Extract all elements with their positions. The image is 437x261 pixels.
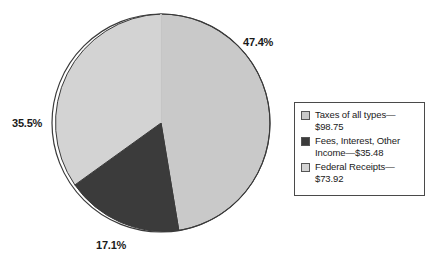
legend-swatch-icon-fees-interest-other-income — [301, 137, 310, 146]
pie-label-fees-interest-other-income: 17.1% — [96, 239, 126, 251]
legend-label-line1: Fees, Interest, Other — [315, 135, 400, 146]
legend-item-federal-receipts[interactable]: Federal Receipts— $73.92 — [301, 161, 419, 184]
legend-label-federal-receipts: Federal Receipts— $73.92 — [315, 161, 395, 184]
legend-label-line2: $98.75 — [315, 121, 343, 132]
legend-label-line2: Income—$35.48 — [315, 147, 383, 158]
pie-chart-area: 47.4% 17.1% 35.5% — [0, 0, 290, 261]
legend-item-taxes-of-all-types[interactable]: Taxes of all types— $98.75 — [301, 109, 419, 132]
legend-swatch-icon-federal-receipts — [301, 163, 310, 172]
legend-item-fees-interest-other-income[interactable]: Fees, Interest, Other Income—$35.48 — [301, 135, 419, 158]
legend-label-line1: Taxes of all types— — [315, 109, 395, 120]
legend-label-line1: Federal Receipts— — [315, 161, 395, 172]
pie-chart-figure: 47.4% 17.1% 35.5% Taxes of all types— $9… — [0, 0, 437, 261]
pie-label-federal-receipts: 35.5% — [12, 117, 42, 129]
chart-legend: Taxes of all types— $98.75 Fees, Interes… — [294, 102, 425, 196]
legend-label-taxes-of-all-types: Taxes of all types— $98.75 — [315, 109, 395, 132]
legend-label-fees-interest-other-income: Fees, Interest, Other Income—$35.48 — [315, 135, 400, 158]
legend-swatch-icon-taxes-of-all-types — [301, 111, 310, 120]
legend-label-line2: $73.92 — [315, 173, 343, 184]
pie-label-taxes-of-all-types: 47.4% — [243, 36, 273, 48]
